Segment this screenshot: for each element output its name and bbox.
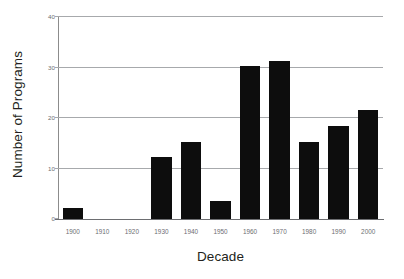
x-axis-tick-label: 1970	[272, 228, 286, 235]
x-axis-tick-label: 1990	[332, 228, 346, 235]
y-axis-tick-label: 20	[48, 115, 55, 121]
x-axis-tick-label: 1920	[125, 228, 139, 235]
x-axis-tick-label: 1900	[66, 228, 80, 235]
bar	[151, 157, 172, 219]
bar-series	[58, 17, 383, 219]
bar-chart-figure: Number of Programs 010203040 19001910192…	[0, 0, 404, 279]
bar	[299, 142, 320, 219]
bar	[240, 66, 261, 219]
y-axis-title: Number of Programs	[0, 0, 36, 228]
bar	[358, 110, 379, 219]
x-axis-tick-label: 1940	[184, 228, 198, 235]
x-axis-tick-label: 1980	[302, 228, 316, 235]
y-axis-tick-labels: 010203040	[36, 0, 58, 228]
y-axis-tick-label: 30	[48, 64, 55, 70]
x-axis-tick-label: 1910	[95, 228, 109, 235]
y-axis-tick-label: 10	[48, 165, 55, 171]
plot-area	[58, 17, 383, 219]
bar	[328, 126, 349, 219]
x-axis-tick-labels: 1900191019201930194019501960197019801990…	[58, 228, 383, 242]
bar	[210, 201, 231, 219]
x-axis-tick-label: 2000	[361, 228, 375, 235]
x-axis-tick-label: 1950	[213, 228, 227, 235]
y-axis-tick-label: 40	[48, 14, 55, 20]
bar	[269, 61, 290, 219]
bar	[63, 208, 84, 219]
bar	[181, 142, 202, 219]
x-axis-title: Decade	[58, 249, 383, 264]
y-axis-title-text: Number of Programs	[11, 50, 26, 177]
x-axis-tick-label: 1960	[243, 228, 257, 235]
x-axis-tick-label: 1930	[154, 228, 168, 235]
x-axis-spine	[55, 219, 384, 220]
